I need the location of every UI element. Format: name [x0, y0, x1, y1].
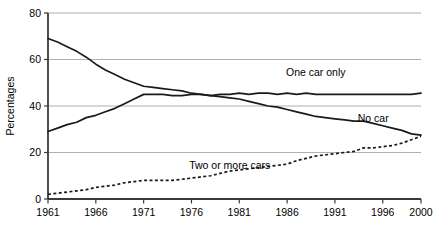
line-chart: 020406080 196119661971197619811986199119…: [0, 0, 444, 243]
y-tick-label: 0: [35, 193, 41, 205]
x-tick-label: 1991: [323, 206, 347, 218]
y-axis-tick-labels: 020406080: [29, 7, 48, 205]
y-tick-label: 60: [29, 53, 41, 65]
x-tick-label: 1981: [228, 206, 252, 218]
series-label-no-car: No car: [358, 112, 389, 124]
x-tick-label: 1966: [84, 206, 108, 218]
x-tick-label: 2000: [409, 206, 433, 218]
y-tick-label: 80: [29, 7, 41, 19]
gridlines: [48, 13, 421, 153]
x-tick-label: 1976: [180, 206, 204, 218]
y-axis-title: Percentages: [4, 77, 16, 136]
series-annotations: No carOne car onlyTwo or more cars: [189, 66, 389, 171]
series-label-one-car-only: One car only: [286, 66, 346, 78]
chart-canvas: 020406080 196119661971197619811986199119…: [0, 0, 444, 243]
y-tick-label: 40: [29, 100, 41, 112]
x-tick-label: 1986: [275, 206, 299, 218]
x-tick-label: 1996: [371, 206, 395, 218]
x-tick-label: 1961: [36, 206, 60, 218]
y-tick-label: 20: [29, 146, 41, 158]
x-tick-label: 1971: [132, 206, 156, 218]
x-axis-tick-labels: 196119661971197619811986199119962000: [36, 206, 433, 218]
series-label-two-or-more-cars: Two or more cars: [189, 159, 270, 171]
